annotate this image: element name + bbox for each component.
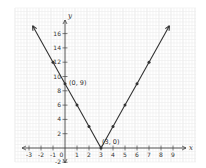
y-tick-label: 6 <box>57 101 61 108</box>
data-point <box>124 104 127 107</box>
point-label-0-9: (0, 9) <box>69 79 86 87</box>
y-tick-label: 14 <box>53 44 61 51</box>
point-label-3-0: (3, 0) <box>102 138 119 146</box>
x-tick-label: 3 <box>99 151 103 158</box>
x-axis-label: x <box>189 144 193 152</box>
x-tick-label: 2 <box>87 151 91 158</box>
data-point <box>148 61 151 64</box>
y-tick-label: 4 <box>57 115 61 122</box>
y-tick-label: 2 <box>57 130 61 137</box>
x-tick-label: 5 <box>123 151 127 158</box>
data-point <box>100 147 103 150</box>
y-tick-label: 8 <box>57 87 61 94</box>
data-point <box>76 104 79 107</box>
y-tick-label: 10 <box>53 73 61 80</box>
x-tick-label: 8 <box>159 151 163 158</box>
absolute-value-graph: -3-2-10123456789-2246810121416 y x (0, 9… <box>0 0 206 168</box>
data-point <box>52 61 55 64</box>
x-tick-label: 0 <box>60 151 64 158</box>
x-tick-label: 4 <box>111 151 115 158</box>
data-point <box>112 125 115 128</box>
x-tick-label: -2 <box>38 151 44 158</box>
x-tick-label: 9 <box>171 151 175 158</box>
data-point <box>88 125 91 128</box>
x-tick-label: 1 <box>75 151 79 158</box>
x-tick-label: -1 <box>50 151 56 158</box>
x-tick-label: 7 <box>147 151 151 158</box>
x-tick-label: 6 <box>135 151 139 158</box>
y-tick-label: -2 <box>55 158 61 165</box>
data-point <box>136 82 139 85</box>
data-point <box>64 82 67 85</box>
x-tick-label: -3 <box>26 151 32 158</box>
y-tick-label: 16 <box>53 30 61 37</box>
